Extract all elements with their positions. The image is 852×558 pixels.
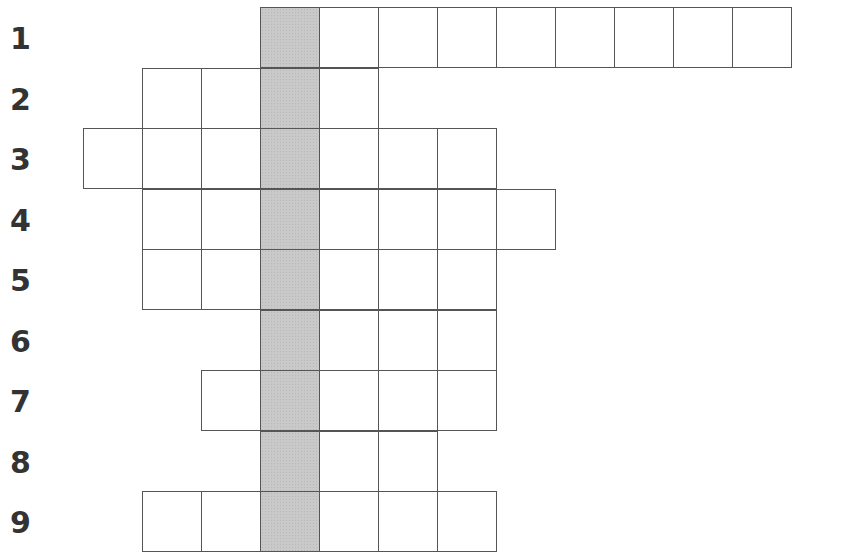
- letter-cell[interactable]: [83, 128, 143, 189]
- letter-input[interactable]: [320, 129, 378, 188]
- letter-cell[interactable]: [201, 249, 261, 310]
- letter-input[interactable]: [556, 8, 614, 67]
- keyword-cell[interactable]: [260, 310, 320, 371]
- letter-input[interactable]: [497, 190, 555, 249]
- letter-cell[interactable]: [437, 128, 497, 189]
- letter-cell[interactable]: [732, 7, 792, 68]
- letter-input[interactable]: [143, 69, 201, 128]
- letter-cell[interactable]: [319, 7, 379, 68]
- letter-cell[interactable]: [437, 7, 497, 68]
- letter-cell[interactable]: [378, 310, 438, 371]
- letter-cell[interactable]: [378, 370, 438, 431]
- letter-cell[interactable]: [201, 491, 261, 552]
- letter-input[interactable]: [143, 250, 201, 309]
- keyword-cell[interactable]: [260, 431, 320, 492]
- letter-input[interactable]: [143, 190, 201, 249]
- letter-input[interactable]: [379, 190, 437, 249]
- letter-input[interactable]: [438, 311, 496, 370]
- letter-cell[interactable]: [142, 491, 202, 552]
- letter-input[interactable]: [202, 492, 260, 551]
- letter-input[interactable]: [438, 129, 496, 188]
- letter-cell[interactable]: [319, 491, 379, 552]
- letter-cell[interactable]: [555, 7, 615, 68]
- keyword-cell[interactable]: [260, 370, 320, 431]
- letter-cell[interactable]: [319, 249, 379, 310]
- letter-input[interactable]: [320, 371, 378, 430]
- letter-cell[interactable]: [437, 249, 497, 310]
- letter-input[interactable]: [84, 129, 142, 188]
- letter-cell[interactable]: [614, 7, 674, 68]
- letter-cell[interactable]: [319, 370, 379, 431]
- letter-input[interactable]: [497, 8, 555, 67]
- letter-cell[interactable]: [437, 310, 497, 371]
- letter-cell[interactable]: [378, 189, 438, 250]
- letter-input[interactable]: [379, 250, 437, 309]
- letter-input[interactable]: [143, 129, 201, 188]
- letter-input[interactable]: [320, 311, 378, 370]
- letter-cell[interactable]: [378, 7, 438, 68]
- letter-input[interactable]: [320, 432, 378, 491]
- letter-input[interactable]: [733, 8, 791, 67]
- letter-cell[interactable]: [496, 7, 556, 68]
- letter-input[interactable]: [320, 492, 378, 551]
- letter-cell[interactable]: [437, 491, 497, 552]
- letter-cell[interactable]: [201, 68, 261, 129]
- letter-input[interactable]: [202, 371, 260, 430]
- letter-input[interactable]: [320, 69, 378, 128]
- keyword-cell[interactable]: [260, 491, 320, 552]
- letter-input[interactable]: [438, 190, 496, 249]
- letter-input[interactable]: [379, 311, 437, 370]
- letter-cell[interactable]: [201, 128, 261, 189]
- letter-input[interactable]: [674, 8, 732, 67]
- letter-cell[interactable]: [378, 128, 438, 189]
- keyword-cell[interactable]: [260, 189, 320, 250]
- letter-cell[interactable]: [142, 68, 202, 129]
- letter-input[interactable]: [320, 190, 378, 249]
- letter-input[interactable]: [202, 250, 260, 309]
- letter-input[interactable]: [261, 492, 319, 551]
- letter-input[interactable]: [438, 371, 496, 430]
- letter-cell[interactable]: [319, 310, 379, 371]
- letter-cell[interactable]: [142, 189, 202, 250]
- letter-input[interactable]: [261, 129, 319, 188]
- letter-input[interactable]: [261, 250, 319, 309]
- letter-input[interactable]: [379, 492, 437, 551]
- letter-input[interactable]: [202, 69, 260, 128]
- letter-input[interactable]: [202, 129, 260, 188]
- letter-input[interactable]: [261, 432, 319, 491]
- letter-input[interactable]: [379, 371, 437, 430]
- letter-cell[interactable]: [319, 128, 379, 189]
- letter-cell[interactable]: [496, 189, 556, 250]
- letter-input[interactable]: [379, 8, 437, 67]
- letter-input[interactable]: [438, 8, 496, 67]
- keyword-cell[interactable]: [260, 68, 320, 129]
- letter-input[interactable]: [261, 311, 319, 370]
- letter-cell[interactable]: [201, 189, 261, 250]
- letter-cell[interactable]: [319, 431, 379, 492]
- letter-input[interactable]: [143, 492, 201, 551]
- letter-input[interactable]: [438, 250, 496, 309]
- letter-input[interactable]: [261, 8, 319, 67]
- keyword-cell[interactable]: [260, 128, 320, 189]
- letter-input[interactable]: [379, 432, 437, 491]
- letter-input[interactable]: [261, 371, 319, 430]
- letter-cell[interactable]: [378, 431, 438, 492]
- letter-input[interactable]: [261, 190, 319, 249]
- letter-input[interactable]: [261, 69, 319, 128]
- letter-cell[interactable]: [142, 249, 202, 310]
- letter-cell[interactable]: [673, 7, 733, 68]
- letter-cell[interactable]: [201, 370, 261, 431]
- letter-cell[interactable]: [319, 68, 379, 129]
- letter-input[interactable]: [438, 492, 496, 551]
- letter-input[interactable]: [379, 129, 437, 188]
- letter-cell[interactable]: [142, 128, 202, 189]
- letter-cell[interactable]: [437, 189, 497, 250]
- keyword-cell[interactable]: [260, 249, 320, 310]
- letter-cell[interactable]: [319, 189, 379, 250]
- letter-cell[interactable]: [378, 249, 438, 310]
- letter-cell[interactable]: [378, 491, 438, 552]
- letter-input[interactable]: [202, 190, 260, 249]
- letter-input[interactable]: [320, 250, 378, 309]
- letter-cell[interactable]: [437, 370, 497, 431]
- letter-input[interactable]: [615, 8, 673, 67]
